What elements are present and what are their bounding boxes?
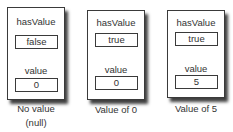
nullable-card-value-0: hasValue true value 0 [87, 10, 145, 100]
has-value-label: hasValue [8, 16, 64, 27]
value-label: value [88, 64, 144, 75]
caption-value-0: Value of 0 [80, 104, 152, 116]
has-value-label: hasValue [168, 17, 224, 28]
has-value-field: false [15, 35, 58, 49]
value-field: 0 [95, 76, 138, 90]
caption-line: No value [7, 103, 65, 115]
has-value-field: true [175, 32, 218, 46]
has-value-label: hasValue [88, 17, 144, 28]
caption-no-value: No value (null) [7, 103, 65, 129]
value-label: value [8, 65, 64, 76]
caption-line: (null) [7, 117, 65, 129]
caption-line: Value of 5 [160, 103, 232, 115]
nullable-card-no-value: hasValue false value 0 [7, 7, 65, 100]
nullable-card-value-5: hasValue true value 5 [167, 10, 225, 98]
caption-value-5: Value of 5 [160, 103, 232, 115]
has-value-field: true [95, 33, 138, 47]
value-field: 0 [15, 78, 58, 92]
caption-line: Value of 0 [80, 104, 152, 116]
value-label: value [168, 63, 224, 74]
value-field: 5 [175, 75, 218, 89]
